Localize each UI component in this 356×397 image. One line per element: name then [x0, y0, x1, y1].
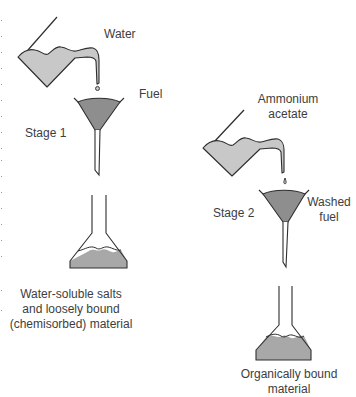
- label-line: Washed: [307, 195, 351, 210]
- caption-line: Organically bound: [241, 367, 338, 382]
- margin-marks: [1, 20, 2, 311]
- drip: [96, 87, 100, 91]
- stage2-reagent-label: Ammonium acetate: [258, 92, 319, 122]
- caption-line: Water-soluble salts: [10, 287, 133, 302]
- stage1-stage-label: Stage 1: [25, 126, 66, 141]
- stage1-flask: [70, 195, 127, 268]
- caption-line: (chemisorbed) material: [10, 317, 133, 332]
- stage1-beaker: [18, 17, 100, 91]
- stage2-stage-label: Stage 2: [213, 206, 254, 221]
- stage2-funnel: [259, 190, 309, 267]
- stage2-solid-label: Washed fuel: [307, 195, 351, 225]
- stage1-funnel: [74, 98, 124, 175]
- label-line: Ammonium: [258, 92, 319, 107]
- label-line: acetate: [258, 107, 319, 122]
- caption-line: material: [241, 382, 338, 397]
- stage1-result-caption: Water-soluble salts and loosely bound (c…: [10, 287, 133, 332]
- caption-line: and loosely bound: [10, 302, 133, 317]
- stage2-result-caption: Organically bound material: [241, 367, 338, 397]
- stage1-reagent-label: Water: [104, 27, 136, 42]
- stage2-flask: [256, 286, 311, 360]
- stage1-solid-label: Fuel: [139, 87, 162, 102]
- label-line: fuel: [307, 210, 351, 225]
